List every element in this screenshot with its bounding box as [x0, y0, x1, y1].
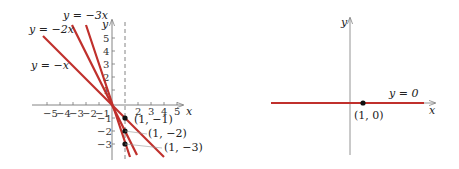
point-1-neg1	[122, 115, 127, 120]
right-x-axis-label: x	[429, 104, 436, 117]
label-y-neg-2x: y = −2x	[28, 23, 75, 36]
leader-line	[125, 131, 147, 134]
x-tick-label: 5	[174, 106, 180, 117]
point-label: (1, 0)	[354, 109, 384, 122]
y-tick-label: 3	[103, 59, 109, 70]
left-x-axis-label: x	[186, 105, 193, 118]
y-tick-label: 4	[103, 46, 109, 57]
y-tick-label: 5	[103, 33, 109, 44]
y-tick-label: −2	[97, 126, 112, 137]
leader-line	[125, 144, 162, 148]
point-label: (1, −1)	[134, 113, 173, 126]
left-graph: −5 −4 −3 −2 −1 2 3 4 5 x 5 4 3 2 1 −1 −2…	[28, 9, 203, 160]
y-tick-label: −1	[97, 113, 112, 124]
label-y-neg-x: y = −x	[30, 59, 70, 72]
point-1-0	[360, 100, 365, 105]
label-y-0: y = 0	[388, 87, 418, 100]
label-y-neg-3x: y = −3x	[62, 9, 109, 22]
right-y-axis-label: y	[340, 16, 348, 29]
point-label: (1, −3)	[164, 141, 203, 154]
point-label: (1, −2)	[148, 127, 187, 140]
y-tick-label: −3	[97, 139, 112, 150]
line-y-neg-3x	[86, 25, 130, 157]
right-graph: y x y = 0 (1, 0)	[271, 16, 436, 155]
diagram-canvas: −5 −4 −3 −2 −1 2 3 4 5 x 5 4 3 2 1 −1 −2…	[0, 0, 459, 169]
